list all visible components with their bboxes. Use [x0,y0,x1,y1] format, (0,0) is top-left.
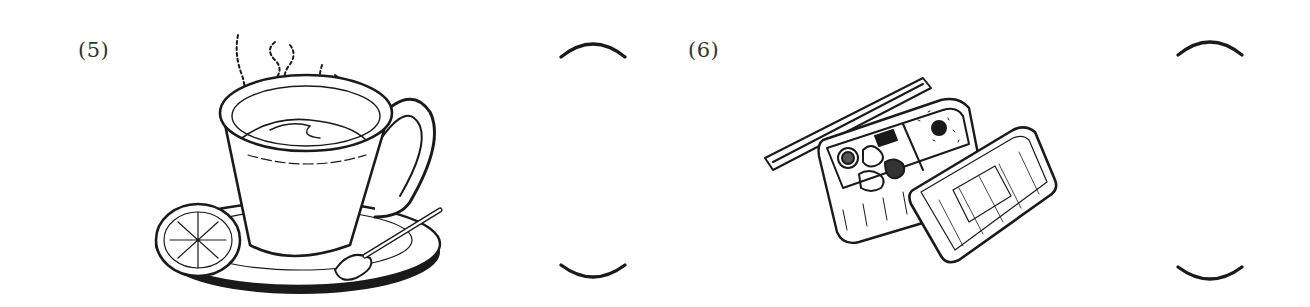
coffee-cup-illustration [150,30,450,300]
question-number: (6) [688,38,719,62]
answer-blank-5[interactable] [558,35,628,285]
question-number: (5) [78,38,109,62]
question-item-5: (5) [0,0,655,307]
answer-blank-6[interactable] [1175,35,1245,285]
question-item-6: (6) [655,0,1310,307]
bento-box-illustration [763,70,1063,270]
